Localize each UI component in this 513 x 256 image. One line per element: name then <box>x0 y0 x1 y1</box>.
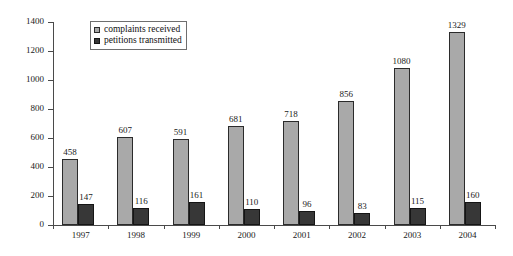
legend-label: petitions transmitted <box>104 36 182 46</box>
x-tick-label-1998: 1998 <box>108 231 163 240</box>
y-tick-mark <box>48 22 53 23</box>
bar-value-label: 161 <box>182 191 212 200</box>
bar-chart: 0200400600800100012001400 45814760711659… <box>0 0 513 256</box>
y-tick-label: 800 <box>2 104 44 113</box>
bar-value-label: 681 <box>221 115 251 124</box>
bar-2000-complaints <box>228 126 244 225</box>
x-tick-label-2003: 2003 <box>385 231 440 240</box>
bar-value-label: 458 <box>55 148 85 157</box>
x-tick-label-2002: 2002 <box>329 231 384 240</box>
bar-value-label: 718 <box>276 110 306 119</box>
bar-value-label: 110 <box>237 198 267 207</box>
y-tick-mark <box>48 196 53 197</box>
bar-value-label: 116 <box>126 197 156 206</box>
bar-value-label: 96 <box>292 200 322 209</box>
bar-value-label: 160 <box>458 191 488 200</box>
y-tick-label: 200 <box>2 191 44 200</box>
legend-swatch-icon <box>94 38 100 44</box>
bar-value-label: 1329 <box>442 21 472 30</box>
bar-value-label: 607 <box>110 126 140 135</box>
x-tick-mark <box>440 225 441 229</box>
bar-value-label: 147 <box>71 193 101 202</box>
x-tick-mark <box>219 225 220 229</box>
bar-2002-petitions <box>354 213 370 225</box>
x-tick-mark <box>108 225 109 229</box>
y-tick-label: 0 <box>2 220 44 229</box>
x-tick-label-1999: 1999 <box>164 231 219 240</box>
y-tick-label: 1000 <box>2 75 44 84</box>
y-tick-label: 1200 <box>2 46 44 55</box>
bar-value-label: 591 <box>166 128 196 137</box>
legend-item-petitions-transmitted: petitions transmitted <box>94 35 182 46</box>
x-tick-label-2004: 2004 <box>440 231 495 240</box>
bar-value-label: 83 <box>347 202 377 211</box>
y-tick-label: 600 <box>2 133 44 142</box>
chart-legend: complaints receivedpetitions transmitted <box>90 21 187 50</box>
y-tick-mark <box>48 51 53 52</box>
x-tick-label-1997: 1997 <box>53 231 108 240</box>
bar-2000-petitions <box>244 209 260 225</box>
bar-2001-petitions <box>299 211 315 225</box>
bar-2004-petitions <box>465 202 481 225</box>
y-tick-label: 1400 <box>2 17 44 26</box>
bar-1998-petitions <box>133 208 149 225</box>
x-tick-mark <box>53 225 54 229</box>
bar-1999-petitions <box>189 202 205 225</box>
x-tick-mark <box>329 225 330 229</box>
bar-2001-complaints <box>283 121 299 225</box>
legend-item-complaints-received: complaints received <box>94 24 182 35</box>
bar-value-label: 1080 <box>387 57 417 66</box>
bar-1999-complaints <box>173 139 189 225</box>
x-tick-mark <box>495 225 496 229</box>
x-tick-mark <box>385 225 386 229</box>
y-axis-line <box>53 22 54 225</box>
bar-1997-petitions <box>78 204 94 225</box>
legend-swatch-icon <box>94 27 100 33</box>
y-tick-mark <box>48 167 53 168</box>
x-tick-mark <box>164 225 165 229</box>
bar-2003-petitions <box>410 208 426 225</box>
y-tick-mark <box>48 80 53 81</box>
bar-value-label: 115 <box>403 197 433 206</box>
x-tick-label-2000: 2000 <box>219 231 274 240</box>
y-tick-mark <box>48 109 53 110</box>
bar-1998-complaints <box>117 137 133 225</box>
y-tick-label: 400 <box>2 162 44 171</box>
x-tick-mark <box>274 225 275 229</box>
y-tick-mark <box>48 138 53 139</box>
bar-value-label: 856 <box>331 90 361 99</box>
legend-label: complaints received <box>104 25 180 35</box>
x-tick-label-2001: 2001 <box>274 231 329 240</box>
